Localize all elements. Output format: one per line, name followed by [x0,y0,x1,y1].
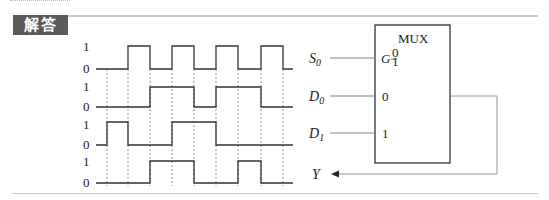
mux-title: MUX [398,31,429,46]
mux-input1-label: 1 [382,126,389,141]
waveform-d1 [96,122,293,145]
row1-high-label: 1 [83,39,90,54]
waveform-d0 [96,87,293,107]
row2-low-label: 0 [83,99,90,114]
row3-high-label: 1 [83,117,90,132]
timing-and-mux-diagram: 1 0 1 0 1 0 1 0 MUX G 0 1 0 1 S0 D0 D1 Y [0,0,549,200]
row4-high-label: 1 [83,154,90,169]
row3-low-label: 0 [83,137,90,152]
d0-label: D0 [308,89,324,106]
waveform-s0 [96,46,293,69]
mux-select-bottom: 1 [392,54,399,69]
s0-label: S0 [309,51,321,68]
output-arrow-icon [331,171,339,178]
row2-high-label: 1 [83,79,90,94]
row4-low-label: 0 [83,175,90,190]
mux-select-label: G [381,51,391,66]
output-wire [338,96,497,174]
row1-low-label: 0 [83,61,90,76]
level-labels: 1 0 1 0 1 0 1 0 [83,39,90,190]
output-y-label: Y [312,167,322,182]
waveform-y [96,161,293,183]
d1-label: D1 [308,126,324,143]
mux-input0-label: 0 [382,89,389,104]
